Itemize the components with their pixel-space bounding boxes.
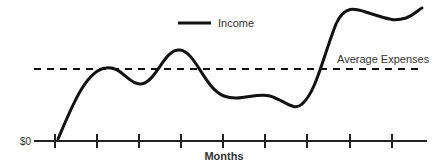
legend-income-label: Income — [218, 17, 254, 29]
x-axis-label: Months — [204, 150, 243, 162]
income-chart: Income Average Expenses $0 Months — [0, 0, 448, 168]
average-expenses-label: Average Expenses — [337, 53, 430, 65]
y-zero-label: $0 — [20, 136, 32, 147]
